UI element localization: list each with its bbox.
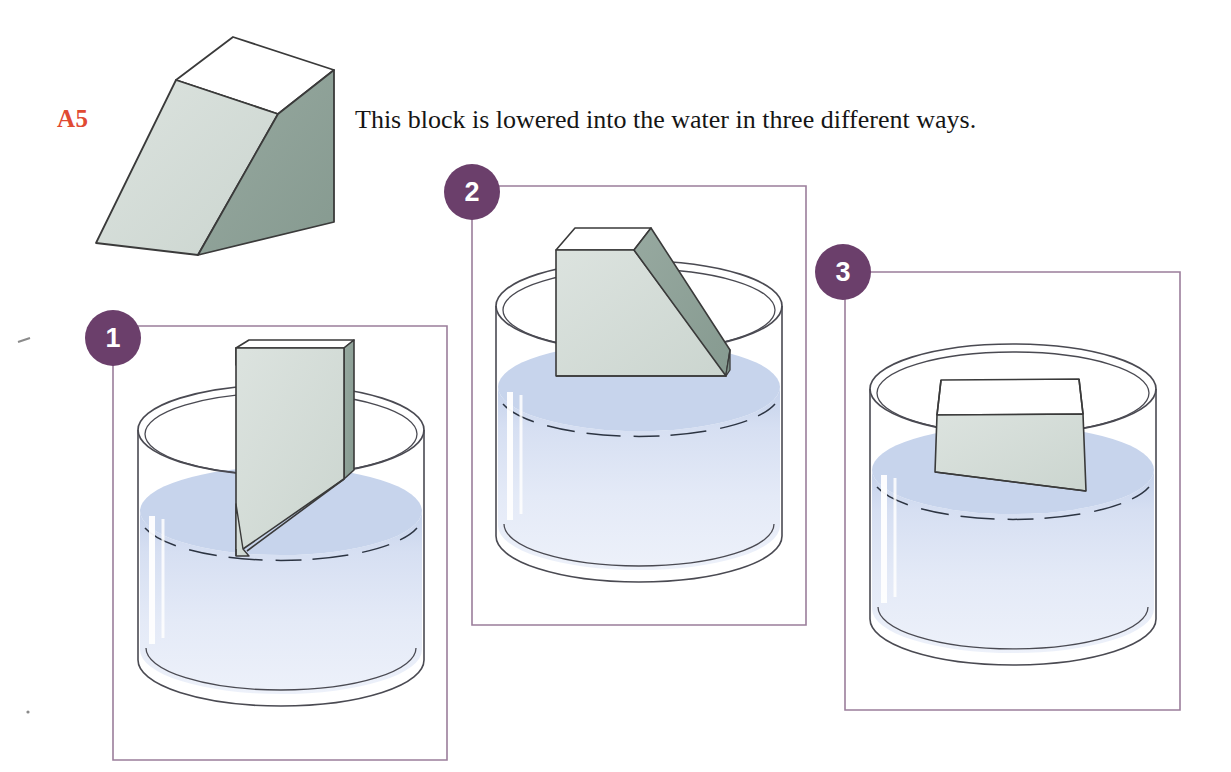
reference-block xyxy=(96,37,334,255)
panel-2-badge-circle[interactable] xyxy=(444,164,500,220)
panel-1-badge[interactable] xyxy=(85,310,141,366)
panel-2-badge[interactable] xyxy=(444,164,500,220)
prompt-text: This block is lowered into the water in … xyxy=(355,105,976,135)
panel-3-badge[interactable] xyxy=(815,244,871,300)
panel-2-illustration xyxy=(496,228,782,582)
panel-3-badge-circle[interactable] xyxy=(815,244,871,300)
panel-3-illustration xyxy=(870,344,1156,665)
panel-1-block-right-face xyxy=(344,340,354,479)
panel-1-block-top-back xyxy=(236,340,354,348)
panel-1-badge-circle[interactable] xyxy=(85,310,141,366)
scan-artifact-mark-a xyxy=(18,338,30,342)
panel-3-block-upper-face xyxy=(937,379,1083,415)
panel-1-illustration xyxy=(138,340,424,706)
exercise-label: A5 xyxy=(57,106,89,131)
scan-artifact-mark-b xyxy=(26,710,29,713)
